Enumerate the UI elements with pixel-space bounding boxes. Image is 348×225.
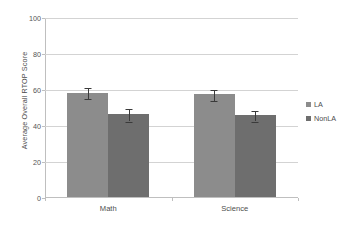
y-tick-label: 80 [33,50,41,59]
x-tick-mark [298,198,299,201]
error-bar-cap-bottom [125,122,132,123]
bar-chart: Average Overall RTOP Score 020406080100 … [0,0,348,225]
bar-nonla-science [235,115,276,197]
error-bar-cap-top [125,109,132,110]
error-bar-cap-bottom [84,99,91,100]
grid-line [45,54,298,55]
error-bar-cap-bottom [252,122,259,123]
y-tick-label: 60 [33,86,41,95]
grid-line [45,18,298,19]
error-bar-cap-bottom [211,101,218,102]
y-tick-mark [42,162,45,163]
legend-label: LA [314,100,323,109]
plot-area: 020406080100 [45,18,298,198]
legend-item-nonla[interactable]: NonLA [306,114,336,123]
y-tick-label: 20 [33,158,41,167]
y-tick-label: 100 [29,14,41,23]
x-axis-label-science: Science [221,204,248,213]
y-tick-mark [42,54,45,55]
y-tick-mark [42,90,45,91]
error-bar [255,111,256,122]
legend-swatch-icon [306,102,311,107]
error-bar-cap-top [84,88,91,89]
y-tick-label: 0 [37,194,41,203]
legend: LANonLA [306,100,336,128]
error-bar [88,88,89,99]
bar-la-science [194,94,235,197]
x-axis-label-math: Math [100,204,117,213]
y-axis-title: Average Overall RTOP Score [20,21,29,181]
error-bar-cap-top [211,90,218,91]
y-tick-mark [42,126,45,127]
error-bar [214,90,215,101]
y-tick-label: 40 [33,122,41,131]
grid-line [45,90,298,91]
y-axis-line [45,18,46,198]
legend-swatch-icon [306,116,311,121]
legend-item-la[interactable]: LA [306,100,336,109]
error-bar-cap-top [252,111,259,112]
legend-label: NonLA [314,114,336,123]
y-tick-mark [42,18,45,19]
x-tick-mark [45,198,46,201]
bar-nonla-math [108,114,149,197]
error-bar [129,109,130,122]
x-tick-mark [172,198,173,201]
bar-la-math [67,93,108,197]
